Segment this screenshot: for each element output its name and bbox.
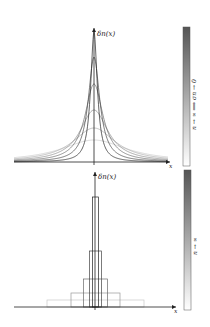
top-colorbar [183, 27, 190, 166]
delta-sequence-figure: δn(x) x n → ∞ ⟹ σn → 0 δn(x) x n → ∞ [0, 0, 210, 327]
delta-curve [14, 128, 168, 159]
top-colorbar-label: n → ∞ ⟹ σn → 0 [190, 79, 197, 130]
top-x-axis-label: x [169, 162, 173, 169]
bottom-y-axis-label: δn(x) [98, 173, 116, 181]
bottom-panel: δn(x) x n → ∞ [14, 170, 198, 314]
delta-pulse [47, 300, 144, 307]
delta-curve [14, 110, 168, 160]
rectangular-delta-pulses [47, 197, 144, 307]
bottom-colorbar-label: n → ∞ [191, 237, 198, 255]
delta-pulse [93, 197, 99, 307]
bottom-x-axis-label: x [174, 307, 178, 314]
bottom-colorbar [184, 170, 191, 310]
smooth-delta-curves [14, 32, 168, 162]
top-panel: δn(x) x n → ∞ ⟹ σn → 0 [14, 27, 197, 169]
top-y-axis-label: δn(x) [97, 30, 115, 38]
delta-curve [14, 84, 168, 161]
delta-curve [14, 32, 168, 162]
